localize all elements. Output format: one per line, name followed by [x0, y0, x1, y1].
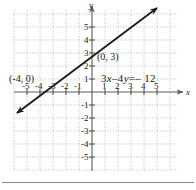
coordinate-plane-figure: 1 2 3 4 5 -5 -4 -3 -2 -1 5 4 3 2 1 -1 -2… — [0, 0, 196, 190]
x-tick-label-neg2: -2 — [61, 82, 69, 91]
y-tick-label-1: 1 — [84, 75, 89, 84]
y-tick-label-neg4: -4 — [81, 140, 89, 149]
y-tick-label-neg1: -1 — [81, 101, 89, 110]
y-tick-label-neg5: -5 — [81, 153, 89, 162]
x-tick-label-neg3: -3 — [48, 82, 56, 91]
bottom-divider — [2, 182, 194, 183]
x-tick-label-neg4: -4 — [35, 82, 43, 91]
y-tick-label-2: 2 — [84, 62, 89, 71]
y-axis-label: y — [89, 1, 93, 10]
equation-rhs: – 12 — [135, 72, 155, 84]
y-tick-label-4: 4 — [84, 36, 89, 45]
y-tick-label-neg3: -3 — [81, 127, 89, 136]
x-axis-label: x — [186, 88, 190, 97]
y-tick-label-5: 5 — [84, 23, 89, 32]
point-label-x-intercept: (-4, 0) — [9, 74, 34, 84]
y-tick-label-3: 3 — [84, 49, 89, 58]
equation-label: 3x–4y=– 12 — [101, 73, 156, 84]
x-tick-label-neg1: -1 — [74, 82, 82, 91]
graph-canvas — [0, 0, 196, 190]
point-label-y-intercept: (0, 3) — [97, 52, 119, 62]
y-tick-label-neg2: -2 — [81, 114, 89, 123]
